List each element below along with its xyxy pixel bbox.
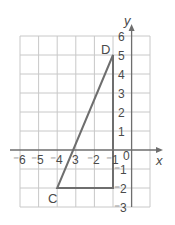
svg-text:⁻4: ⁻4 xyxy=(50,153,63,167)
svg-text:⁻6: ⁻6 xyxy=(13,153,26,167)
svg-text:2: 2 xyxy=(118,106,125,120)
svg-text:⁻5: ⁻5 xyxy=(31,153,44,167)
svg-text:⁻3: ⁻3 xyxy=(114,201,127,215)
coordinate-grid: y x 6 5 4 3 2 1 ⁻1 ⁻2 ⁻3 ⁻6 ⁻5 ⁻4 3 ⁻2 ⁻… xyxy=(0,0,175,225)
y-tick-labels: 6 5 4 3 2 1 ⁻1 ⁻2 ⁻3 xyxy=(114,30,127,215)
svg-text:4: 4 xyxy=(118,68,125,82)
svg-text:1: 1 xyxy=(118,125,125,139)
svg-text:3: 3 xyxy=(72,153,79,167)
svg-text:5: 5 xyxy=(118,49,125,63)
svg-text:⁻2: ⁻2 xyxy=(114,182,127,196)
svg-text:⁻2: ⁻2 xyxy=(87,153,100,167)
y-axis-label: y xyxy=(123,13,132,28)
svg-text:6: 6 xyxy=(118,30,125,44)
x-axis-label: x xyxy=(155,153,163,168)
point-c-label: C xyxy=(48,191,57,206)
origin-label: 0 xyxy=(123,149,130,163)
svg-text:3: 3 xyxy=(118,87,125,101)
triangle-cd xyxy=(57,55,113,188)
point-d-label: D xyxy=(101,42,110,57)
svg-text:⁻1: ⁻1 xyxy=(106,153,119,167)
